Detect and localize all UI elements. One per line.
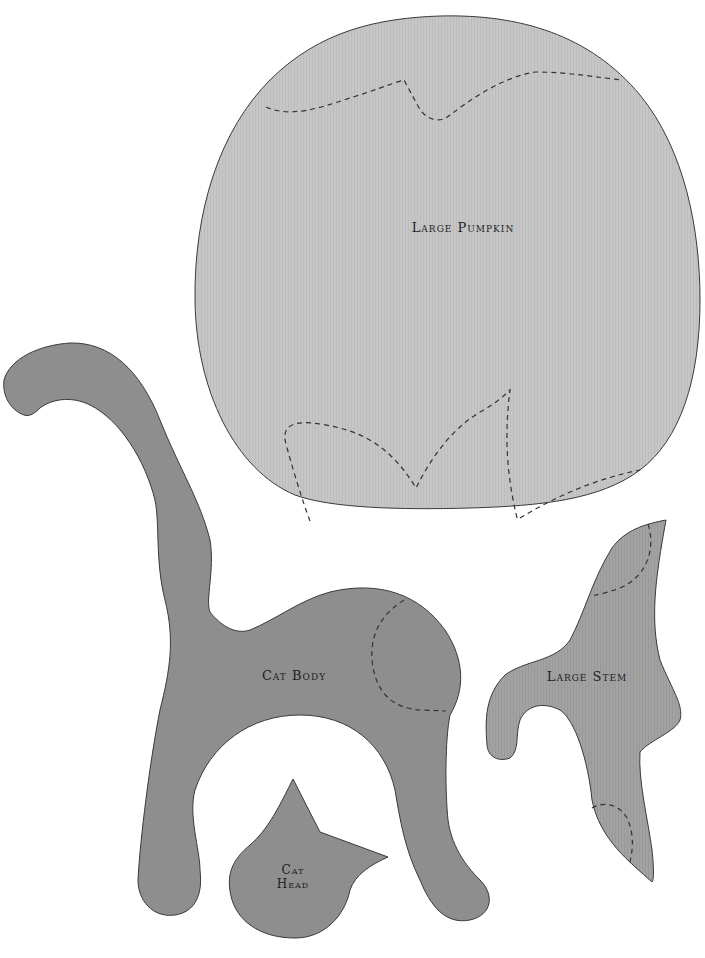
large-stem-piece bbox=[486, 520, 681, 882]
cat-body-label: Cat Body bbox=[262, 669, 326, 684]
cat-head-label: Cat Head bbox=[277, 864, 310, 892]
large-pumpkin-label: Large Pumpkin bbox=[412, 221, 515, 236]
large-pumpkin-outline bbox=[195, 16, 700, 509]
cat-head-piece bbox=[229, 779, 388, 938]
cat-head-label-line1: Cat bbox=[277, 864, 310, 878]
large-stem-label: Large Stem bbox=[547, 670, 628, 685]
cat-head-outline bbox=[229, 779, 388, 938]
large-stem-outline bbox=[486, 520, 681, 882]
cat-head-label-line2: Head bbox=[277, 878, 310, 892]
large-pumpkin-piece bbox=[195, 16, 700, 522]
pattern-sheet bbox=[0, 0, 705, 958]
